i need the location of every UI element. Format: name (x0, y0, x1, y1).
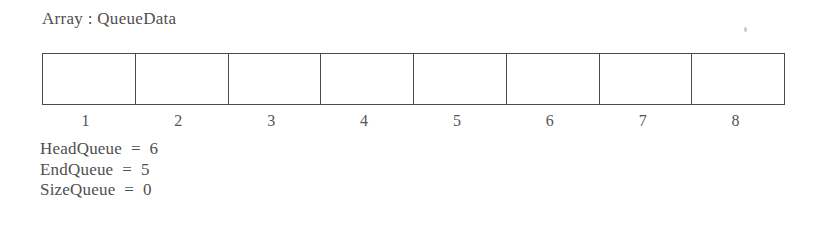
queue-variables-block: HeadQueue = 6 EndQueue = 5 SizeQueue = 0 (40, 139, 158, 201)
diagram-title: Array : QueueData (42, 9, 176, 29)
array-cell (229, 54, 322, 104)
array-index-label: 4 (318, 110, 411, 132)
array-cell (136, 54, 229, 104)
queue-array-diagram: Array : QueueData 1 2 3 4 5 6 7 8 HeadQu… (0, 0, 818, 236)
array-index-label: 3 (225, 110, 318, 132)
array-index-row: 1 2 3 4 5 6 7 8 (42, 110, 785, 132)
array-index-label: 2 (132, 110, 225, 132)
array-index-label: 7 (596, 110, 689, 132)
array-cell (43, 54, 136, 104)
variable-end-queue: EndQueue = 5 (40, 160, 158, 181)
array-cell (321, 54, 414, 104)
array-index-label: 6 (503, 110, 596, 132)
variable-size-queue: SizeQueue = 0 (40, 180, 158, 201)
scan-artifact-speck (744, 27, 747, 32)
array-index-label: 8 (689, 110, 782, 132)
array-cell (414, 54, 507, 104)
array-cell (600, 54, 693, 104)
array-index-label: 1 (39, 110, 132, 132)
array-cell (507, 54, 600, 104)
array-box (42, 53, 785, 105)
variable-head-queue: HeadQueue = 6 (40, 139, 158, 160)
array-cell (692, 54, 784, 104)
array-index-label: 5 (411, 110, 504, 132)
